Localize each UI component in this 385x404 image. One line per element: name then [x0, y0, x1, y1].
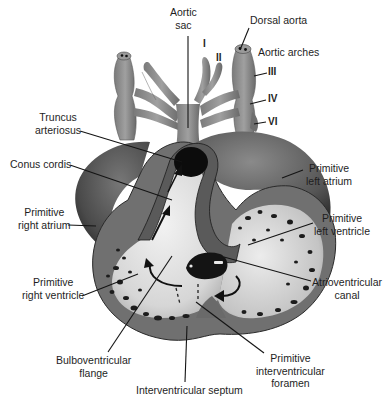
label-arch-iv: IV — [268, 93, 277, 106]
label-line: left ventricle — [314, 225, 370, 238]
label-line: Dorsal aorta — [250, 14, 307, 27]
label-primitive-left-atrium: Primitive left atrium — [306, 162, 352, 187]
label-line: left atrium — [306, 175, 352, 188]
right-arch-vessels — [194, 45, 258, 141]
label-line: Interventricular septum — [136, 384, 243, 397]
embryonic-heart-diagram — [0, 0, 385, 404]
left-arch-vessels — [114, 52, 180, 140]
label-line: Aortic — [170, 6, 197, 19]
label-truncus-arteriosus: Truncus arteriosus — [35, 111, 81, 136]
label-primitive-interventricular-foramen: Primitive interventricular foramen — [256, 352, 325, 390]
label-line: Primitive — [314, 212, 370, 225]
label-line: Primitive — [306, 162, 352, 175]
label-dorsal-aorta: Dorsal aorta — [250, 14, 307, 27]
label-line: Truncus — [35, 111, 81, 124]
label-arch-i: I — [203, 38, 206, 51]
label-line: right atrium — [18, 219, 71, 232]
label-arch-ii: II — [216, 52, 222, 65]
label-line: canal — [312, 289, 382, 302]
label-primitive-right-ventricle: Primitive right ventricle — [22, 276, 84, 301]
label-aortic-sac: Aortic sac — [170, 6, 197, 31]
label-conus-cordis: Conus cordis — [10, 158, 71, 171]
label-line: Atrioventricular — [312, 276, 382, 289]
label-line: sac — [170, 19, 197, 32]
label-line: interventricular — [256, 365, 325, 378]
label-line: Primitive — [22, 276, 84, 289]
label-line: Conus cordis — [10, 158, 71, 171]
label-line: Primitive — [256, 352, 325, 365]
label-line: Bulboventricular — [56, 354, 131, 367]
label-primitive-left-ventricle: Primitive left ventricle — [314, 212, 370, 237]
label-line: arteriosus — [35, 124, 81, 137]
label-atrioventricular-canal: Atrioventricular canal — [312, 276, 382, 301]
label-line: right ventricle — [22, 289, 84, 302]
label-line: flange — [56, 367, 131, 380]
label-aortic-arches: Aortic arches — [258, 46, 319, 59]
label-line: Aortic arches — [258, 46, 319, 59]
label-line: foramen — [256, 377, 325, 390]
label-primitive-right-atrium: Primitive right atrium — [18, 206, 71, 231]
label-line: Primitive — [18, 206, 71, 219]
label-interventricular-septum: Interventricular septum — [136, 384, 243, 397]
label-arch-iii: III — [268, 66, 276, 79]
label-bulboventricular-flange: Bulboventricular flange — [56, 354, 131, 379]
label-arch-vi: VI — [268, 116, 277, 129]
